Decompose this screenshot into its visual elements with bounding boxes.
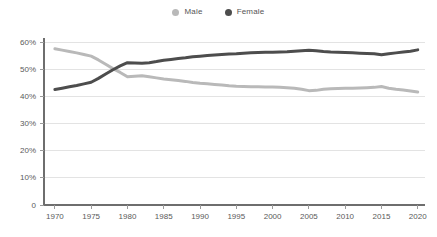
series-line-female[interactable] [55,50,418,90]
x-tick-label-2000: 2000 [264,212,282,221]
x-tick-label-1980: 1980 [119,212,137,221]
y-tick-label-40: 40% [20,92,36,101]
x-tick-label-1990: 1990 [191,212,209,221]
data-series-group [55,49,418,92]
x-tick-label-1970: 1970 [46,212,64,221]
y-axis-labels: 010%20%30%40%50%60% [20,38,37,210]
x-tick-label-2010: 2010 [336,212,354,221]
x-axis-labels: 1970197519801985199019952000200520102015… [46,212,427,221]
y-tick-label-60: 60% [20,38,36,47]
x-tick-label-1975: 1975 [82,212,100,221]
x-tick-label-2005: 2005 [300,212,318,221]
line-chart-svg: 010%20%30%40%50%60% 19701975198019851990… [0,0,437,237]
tick-marks-group [40,42,418,209]
y-tick-label-0: 0 [32,201,37,210]
y-tick-label-10: 10% [20,173,36,182]
plot-area: 010%20%30%40%50%60% 19701975198019851990… [0,0,437,237]
y-tick-label-30: 30% [20,119,36,128]
y-tick-label-50: 50% [20,65,36,74]
chart-container: Male Female 010%20%30%40%50%60% 19701975… [0,0,437,237]
y-tick-label-20: 20% [20,146,36,155]
x-tick-label-2015: 2015 [373,212,391,221]
x-tick-label-2020: 2020 [409,212,427,221]
x-tick-label-1985: 1985 [155,212,173,221]
x-tick-label-1995: 1995 [227,212,245,221]
